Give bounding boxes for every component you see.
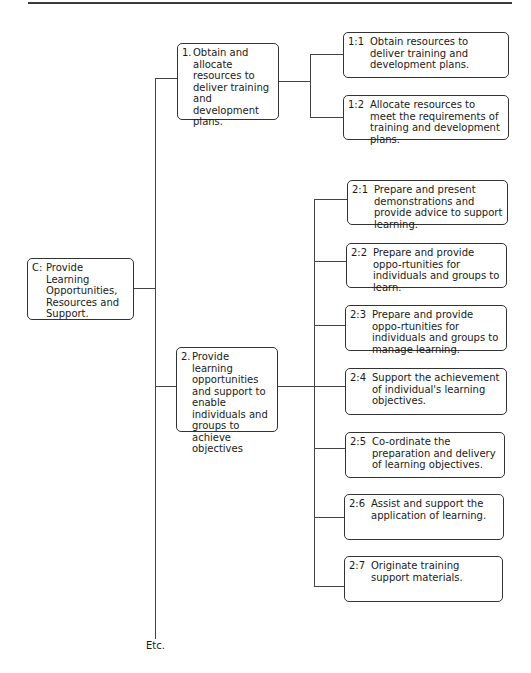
element-2-2-text: Prepare and provide oppo-rtunities for i… xyxy=(351,247,502,293)
element-2-5-text: Co-ordinate the preparation and delivery… xyxy=(350,436,500,471)
connector-trunk-unit1 xyxy=(155,78,177,79)
element-2-5-box: 2:5 Co-ordinate the preparation and deli… xyxy=(345,432,505,478)
connector-el-2-1 xyxy=(314,199,347,200)
element-2-4-text: Support the achievement of individual's … xyxy=(350,372,502,407)
connector-el-1-2 xyxy=(310,117,343,118)
element-2-4-box: 2:4 Support the achievement of individua… xyxy=(345,368,507,415)
connector-unit1-bracket xyxy=(279,81,310,82)
connector-el-2-2 xyxy=(314,261,346,262)
element-1-2-text: Allocate resources to meet the requireme… xyxy=(348,99,504,145)
element-1-1-prefix: 1:1 xyxy=(348,36,364,48)
element-2-3-prefix: 2:3 xyxy=(350,309,366,321)
connector-el-2-5 xyxy=(314,448,345,449)
unit-2-prefix: 2. xyxy=(181,351,191,363)
root-box-c: C: Provide Learning Opportunities, Resou… xyxy=(27,258,134,320)
connector-el-1-1 xyxy=(310,54,343,55)
page-top-rule xyxy=(28,2,512,4)
element-2-3-text: Prepare and provide oppo-rtunities for i… xyxy=(350,309,502,355)
connector-el-2-4 xyxy=(314,386,345,387)
element-1-1-box: 1:1 Obtain resources to deliver training… xyxy=(343,32,509,78)
connector-el-2-3 xyxy=(314,325,345,326)
element-2-3-box: 2:3 Prepare and provide oppo-rtunities f… xyxy=(345,305,507,351)
unit-2-text: Provide learning opportunities and suppo… xyxy=(181,351,273,455)
connector-el-2-7 xyxy=(314,586,344,587)
element-2-6-text: Assist and support the application of le… xyxy=(349,498,499,521)
trunk-line xyxy=(155,78,156,639)
element-2-1-box: 2:1 Prepare and present demonstrations a… xyxy=(347,180,508,225)
element-1-2-box: 1:2 Allocate resources to meet the requi… xyxy=(343,95,509,140)
element-2-6-box: 2:6 Assist and support the application o… xyxy=(344,494,504,540)
unit-1-prefix: 1. xyxy=(182,47,192,59)
unit-2-box: 2. Provide learning opportunities and su… xyxy=(176,347,278,432)
unit-1-box: 1. Obtain and allocate resources to deli… xyxy=(177,43,279,120)
element-2-2-box: 2:2 Prepare and provide oppo-rtunities f… xyxy=(346,243,507,288)
element-1-2-prefix: 1:2 xyxy=(348,99,364,111)
element-2-2-prefix: 2:2 xyxy=(351,247,367,259)
element-2-6-prefix: 2:6 xyxy=(349,498,365,510)
element-1-1-text: Obtain resources to deliver training and… xyxy=(348,36,504,71)
unit-1-text: Obtain and allocate resources to deliver… xyxy=(182,47,274,128)
connector-unit2-bracket xyxy=(278,386,314,387)
unit-2-bracket xyxy=(314,199,315,586)
unit-1-bracket xyxy=(310,54,311,118)
root-prefix: C: xyxy=(32,262,42,274)
element-2-7-box: 2:7 Originate training support materials… xyxy=(344,556,503,602)
element-2-1-text: Prepare and present demonstrations and p… xyxy=(352,184,503,230)
element-2-5-prefix: 2:5 xyxy=(350,436,366,448)
element-2-1-prefix: 2:1 xyxy=(352,184,368,196)
connector-el-2-6 xyxy=(314,517,344,518)
connector-root-trunk xyxy=(134,288,155,289)
root-text: Provide Learning Opportunities, Resource… xyxy=(32,262,129,320)
element-2-4-prefix: 2:4 xyxy=(350,372,366,384)
continuation-label: Etc. xyxy=(146,640,165,651)
connector-trunk-unit2 xyxy=(155,386,176,387)
element-2-7-prefix: 2:7 xyxy=(349,560,365,572)
element-2-7-text: Originate training support materials. xyxy=(349,560,498,583)
